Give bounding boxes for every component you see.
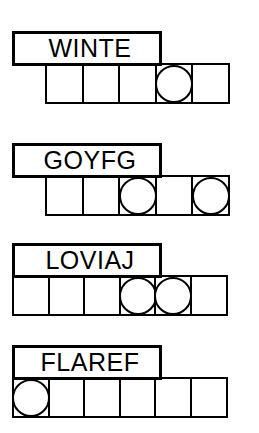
answer-cell-circled[interactable] (12, 377, 50, 418)
scrambled-word-box: LOVIAJ (12, 243, 162, 278)
answer-cell-row (45, 175, 230, 216)
answer-cell[interactable] (45, 175, 84, 216)
answer-cell-circled[interactable] (118, 175, 157, 216)
answer-cell[interactable] (190, 377, 228, 418)
answer-cell[interactable] (82, 63, 121, 104)
scrambled-word-text: LOVIAJ (15, 246, 159, 275)
answer-cell[interactable] (191, 63, 230, 104)
scrambled-word-box: GOYFG (12, 143, 162, 178)
scrambled-word-box: WINTE (12, 31, 162, 66)
scrambled-word-text: WINTE (15, 34, 159, 63)
answer-cell[interactable] (48, 377, 86, 418)
answer-cell[interactable] (48, 275, 86, 316)
answer-cell-row (12, 275, 228, 316)
answer-cell[interactable] (190, 275, 228, 316)
scrambled-word-box: FLAREF (12, 345, 162, 380)
answer-cell[interactable] (45, 63, 84, 104)
answer-cell[interactable] (119, 377, 157, 418)
answer-cell-circled[interactable] (154, 275, 192, 316)
answer-cell-circled[interactable] (191, 175, 230, 216)
answer-cell[interactable] (83, 377, 121, 418)
scrambled-word-text: FLAREF (15, 348, 159, 377)
answer-cell[interactable] (12, 275, 50, 316)
answer-cell[interactable] (82, 175, 121, 216)
answer-cell[interactable] (154, 377, 192, 418)
scrambled-word-text: GOYFG (15, 146, 159, 175)
answer-cell-circled[interactable] (155, 63, 194, 104)
puzzle-sheet: WINTE GOYFG LOVIAJ (0, 0, 259, 433)
answer-cell-circled[interactable] (119, 275, 157, 316)
answer-cell-row (45, 63, 230, 104)
answer-cell-row (12, 377, 228, 418)
answer-cell[interactable] (155, 175, 194, 216)
answer-cell[interactable] (83, 275, 121, 316)
answer-cell[interactable] (118, 63, 157, 104)
